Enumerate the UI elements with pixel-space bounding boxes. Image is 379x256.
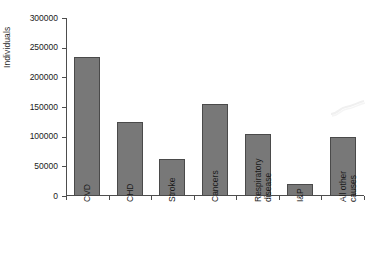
y-axis-tick-label-text: 50000	[2, 162, 58, 171]
bar-chart: Individuals 0500001000001500002000002500…	[0, 0, 379, 256]
y-axis-tick	[62, 48, 66, 49]
y-axis-tick-label: 50000	[0, 162, 58, 171]
x-axis-tick	[279, 196, 280, 200]
y-axis-tick-label-text: 0	[2, 192, 58, 201]
x-axis-label: I&P	[296, 188, 306, 202]
x-axis-label: Stroke	[168, 177, 178, 202]
x-axis-label: CHD	[126, 184, 136, 202]
x-axis-tick	[151, 196, 152, 200]
y-axis-tick	[62, 107, 66, 108]
y-axis-tick-label: 0	[0, 192, 58, 201]
x-axis-label: Respiratory	[254, 159, 264, 202]
bar	[74, 57, 100, 196]
y-axis-tick-label: 300000	[0, 14, 58, 23]
y-axis-tick-label-text: 300000	[2, 14, 58, 23]
x-axis-tick	[364, 196, 365, 200]
y-axis-title: Individuals	[2, 0, 16, 68]
x-axis-tick	[236, 196, 237, 200]
y-axis-line	[66, 18, 67, 196]
y-axis-tick-label: 100000	[0, 132, 58, 141]
y-axis-tick-label: 150000	[0, 103, 58, 112]
y-axis-tick	[62, 18, 66, 19]
x-axis-tick	[109, 196, 110, 200]
x-axis-label: Cancers	[211, 170, 221, 202]
y-axis-tick-label: 250000	[0, 43, 58, 52]
y-axis-tick-label-text: 150000	[2, 103, 58, 112]
y-axis-tick	[62, 77, 66, 78]
y-axis-tick	[62, 137, 66, 138]
y-axis-tick-label-text: 100000	[2, 132, 58, 141]
x-axis-label: All other	[339, 171, 349, 202]
x-axis-label: causes	[349, 175, 359, 202]
x-axis-tick	[194, 196, 195, 200]
x-axis-tick	[66, 196, 67, 200]
scan-artifact-icon	[330, 100, 370, 118]
y-axis-tick-label-text: 200000	[2, 73, 58, 82]
y-axis-tick-label: 200000	[0, 73, 58, 82]
y-axis-tick	[62, 166, 66, 167]
y-axis-tick-label-text: 250000	[2, 43, 58, 52]
x-axis-tick	[321, 196, 322, 200]
x-axis-label: CVD	[83, 184, 93, 202]
x-axis-label: disease	[264, 173, 274, 202]
